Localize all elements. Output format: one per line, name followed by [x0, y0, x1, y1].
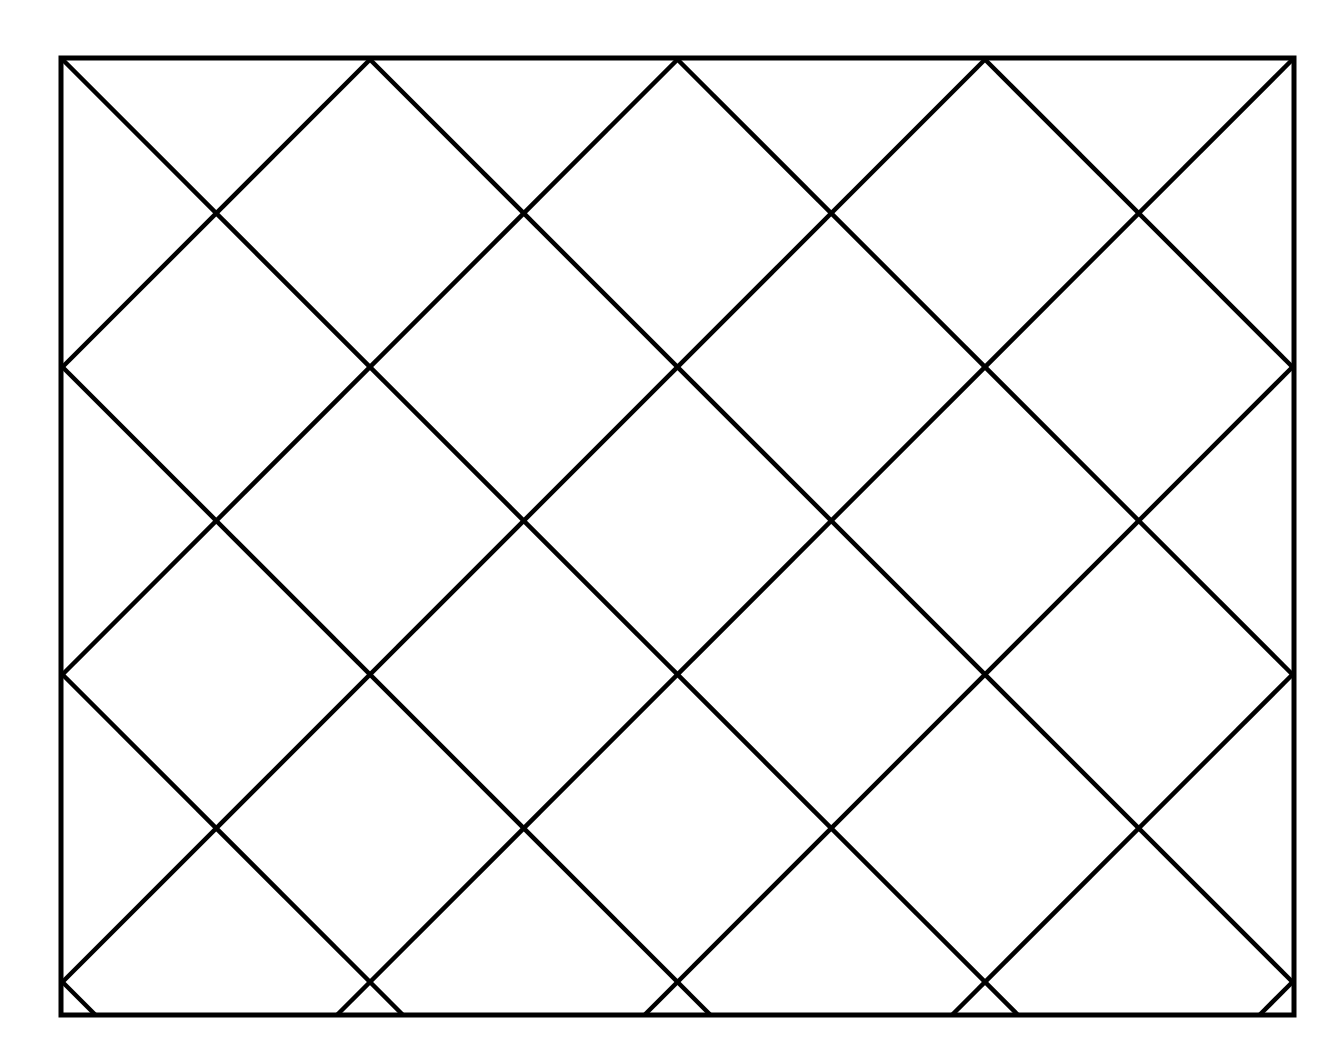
diagonal-lattice-diagram: [0, 0, 1339, 1063]
figure-canvas: [0, 0, 1339, 1063]
diagram-background: [0, 0, 1339, 1063]
